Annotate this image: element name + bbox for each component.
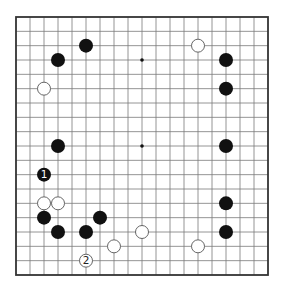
stones-layer: 12	[37, 39, 233, 267]
white-stone-icon	[192, 39, 205, 52]
black-stone-icon	[219, 82, 233, 96]
white-stone: 2	[80, 254, 93, 267]
star-point	[140, 58, 144, 62]
white-stone	[38, 197, 51, 210]
star-point	[140, 144, 144, 148]
go-board: 12	[0, 0, 283, 299]
black-stone-icon	[219, 139, 233, 153]
white-stone	[136, 226, 149, 239]
black-stone	[219, 139, 233, 153]
white-stone-icon	[38, 82, 51, 95]
black-stone	[79, 39, 93, 53]
black-stone-icon	[79, 39, 93, 53]
white-stone	[108, 240, 121, 253]
white-stone	[52, 197, 65, 210]
white-stone-icon	[52, 197, 65, 210]
move-number-label: 1	[41, 168, 48, 180]
black-stone	[51, 139, 65, 153]
white-stone-icon	[136, 226, 149, 239]
black-stone: 1	[37, 168, 51, 182]
black-stone-icon	[51, 139, 65, 153]
move-number-label: 2	[83, 254, 90, 266]
white-stone-icon	[38, 197, 51, 210]
black-stone	[219, 225, 233, 239]
black-stone-icon	[51, 53, 65, 67]
white-stone-icon	[192, 240, 205, 253]
black-stone	[219, 53, 233, 67]
black-stone	[219, 196, 233, 210]
black-stone	[51, 53, 65, 67]
black-stone	[219, 82, 233, 96]
black-stone-icon	[219, 196, 233, 210]
black-stone-icon	[93, 211, 107, 225]
black-stone-icon	[51, 225, 65, 239]
black-stone	[51, 225, 65, 239]
white-stone	[192, 39, 205, 52]
black-stone	[93, 211, 107, 225]
white-stone-icon	[108, 240, 121, 253]
white-stone	[192, 240, 205, 253]
black-stone-icon	[219, 53, 233, 67]
black-stone-icon	[219, 225, 233, 239]
black-stone-icon	[37, 211, 51, 225]
black-stone	[79, 225, 93, 239]
black-stone	[37, 211, 51, 225]
white-stone	[38, 82, 51, 95]
black-stone-icon	[79, 225, 93, 239]
